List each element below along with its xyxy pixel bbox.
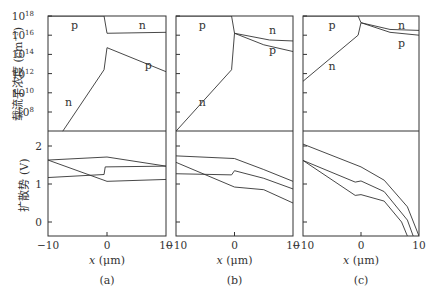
ytick-1: 1 (35, 178, 42, 190)
concentration-curve (107, 32, 166, 33)
ytick-10e10: 1010 (12, 87, 34, 99)
potential-curve (48, 157, 166, 166)
figure: 载流子浓度 (cm−3) 扩散势 (V) 1018101610141012101… (0, 0, 428, 292)
potential-curve (48, 166, 166, 177)
carrier-type-label: p (269, 44, 276, 57)
carrier-type-label: p (199, 19, 206, 32)
ytick-0: 0 (35, 216, 42, 228)
ytick-10e12: 1012 (12, 68, 34, 80)
carrier-type-label: p (71, 19, 78, 32)
ytick-10e16: 1016 (12, 29, 35, 41)
panel-label: (b) (227, 274, 243, 287)
carrier-type-label: p (328, 19, 335, 32)
xtick-10: 10 (412, 239, 425, 251)
xtick--10: −10 (292, 239, 314, 251)
carrier-type-label: n (65, 96, 72, 109)
potential-curve (176, 171, 293, 189)
x-axis-label: x (μm) (89, 254, 125, 267)
concentration-curve (235, 33, 294, 51)
carrier-type-label: n (398, 19, 405, 32)
chart-panel-a: pnpn−10010x (μm)(a) (37, 16, 173, 287)
x-axis-label: x (μm) (343, 254, 379, 267)
carrier-type-label: p (145, 59, 152, 72)
xtick--10: −10 (165, 239, 187, 251)
ytick-10e14: 1014 (12, 48, 35, 60)
concentration-curve (361, 23, 419, 31)
xtick-0: 0 (104, 239, 111, 251)
potential-curve (303, 160, 407, 236)
concentration-curve (176, 33, 235, 131)
panel-label: (a) (99, 274, 114, 287)
x-axis-label: x (μm) (217, 254, 253, 267)
carrier-type-label: n (269, 24, 276, 37)
ytick-2: 2 (35, 140, 42, 152)
concentration-curve (107, 48, 166, 72)
concentration-curve (63, 48, 107, 132)
chart-panel-b: pnpn−10010x (μm)(b) (165, 16, 300, 287)
ytick-10e18: 1018 (12, 10, 34, 22)
xtick-0: 0 (358, 239, 365, 251)
y-axis-label-diffusion-potential: 扩散势 (V) (17, 158, 31, 211)
chart-panel-c: pnpn−10010x (μm)(c) (292, 16, 426, 287)
xtick-0: 0 (231, 239, 238, 251)
carrier-type-label: n (139, 19, 146, 32)
carrier-type-label: n (328, 60, 335, 73)
potential-curve (176, 156, 293, 181)
panel-label: (c) (354, 274, 369, 287)
ytick-10e8: 108 (16, 106, 34, 118)
xtick--10: −10 (37, 239, 59, 251)
carrier-type-label: n (199, 96, 206, 109)
carrier-type-label: p (398, 37, 405, 50)
